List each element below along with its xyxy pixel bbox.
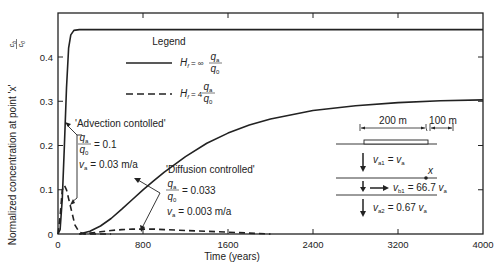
y-tick-label: 0.1 [40, 184, 53, 195]
arrowhead-down-icon [360, 187, 366, 192]
x-tick-label: 4000 [472, 239, 493, 250]
source-box [364, 140, 428, 144]
point-x-marker [424, 176, 428, 180]
arrowhead-icon [361, 127, 365, 130]
diffusion-q-value: = 0.033 [182, 185, 216, 196]
y-tick-label: 0 [48, 229, 53, 240]
advection-v-value: va= 0.03 m/a [79, 159, 138, 171]
diffusion-v-value: va= 0.003 m/a [167, 206, 232, 218]
y-tick-label: 0.3 [40, 96, 53, 107]
arrowhead-down-icon [360, 166, 366, 172]
x-tick-label: 3200 [387, 239, 408, 250]
y-axis-label: Normalized concentration at point 'x' [7, 85, 18, 246]
x-tick-label: 2400 [302, 239, 323, 250]
fraction-denominator: c0 [17, 41, 26, 48]
series-line-2 [58, 185, 111, 234]
series-line-4 [79, 229, 270, 234]
frac-den: q0 [211, 63, 221, 75]
diffusion-annotation: 'Diffusion controlled' qa q0 = 0.033 va=… [134, 164, 255, 232]
chart: 08001600240032004000 00.10.20.30.4 Time … [0, 0, 502, 278]
arrowhead-icon [448, 127, 452, 130]
x-tick-label: 0 [55, 239, 60, 250]
arrowhead-icon [431, 127, 435, 130]
y-axis-label-group: Normalized concentration at point 'x' [7, 85, 18, 246]
advection-title: 'Advection contolled' [75, 118, 166, 129]
frac-num: qa [204, 81, 214, 93]
arrowhead-icon [134, 178, 141, 183]
frac-den: q0 [204, 93, 214, 105]
velocity-b1-label: vb1= 66.7 va [393, 182, 448, 194]
velocity-a1-label: va1= va [373, 154, 405, 166]
legend-solid-label: Hf= ∞ [180, 57, 204, 69]
legend-solid-fraction: qa q0 [209, 51, 222, 75]
legend-dashed-label: Hf= 4 [180, 88, 203, 100]
arrowhead-icon [421, 127, 425, 130]
legend: Legend Hf= ∞ qa q0 Hf= 4 qa q0 [126, 36, 222, 105]
frac-num: qa [168, 178, 178, 190]
legend-title: Legend [152, 36, 185, 47]
frac-num: qa [211, 51, 221, 63]
arrowhead-down-icon [360, 211, 366, 217]
dim-right-label: 100 m [429, 115, 457, 126]
diffusion-pointer-lower [142, 193, 160, 228]
arrowhead-right-icon [383, 185, 389, 191]
x-tick-label: 800 [135, 239, 151, 250]
fraction-numerator: cb [8, 41, 17, 48]
x-tick-label: 1600 [217, 239, 238, 250]
y-tick-labels: 00.10.20.30.4 [40, 52, 53, 240]
advection-annotation: 'Advection contolled' qa q0 = 0.1 va= 0.… [65, 118, 166, 205]
point-x-label: x [427, 165, 434, 176]
legend-dashed-fraction: qa q0 [202, 81, 215, 105]
velocity-a2-label: va2= 0.67 va [373, 202, 428, 214]
diffusion-title: 'Diffusion controlled' [166, 164, 255, 175]
dim-tick [426, 128, 427, 131]
x-tick-labels: 08001600240032004000 [55, 239, 493, 250]
frac-den: q0 [80, 144, 90, 156]
frac-num: qa [80, 132, 90, 144]
frac-den: q0 [168, 191, 178, 203]
inset-schematic: 200 m 100 m x va1= va vb1= 66.7 va va2= … [336, 115, 457, 217]
x-axis-label: Time (years) [204, 251, 260, 262]
advection-q-value: = 0.1 [94, 139, 117, 150]
y-axis-fraction: cb c0 [8, 39, 26, 49]
y-tick-label: 0.2 [40, 140, 53, 151]
y-tick-label: 0.4 [40, 52, 53, 63]
dim-left-label: 200 m [379, 115, 407, 126]
